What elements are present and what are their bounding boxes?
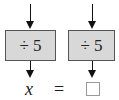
answer-box[interactable] — [86, 82, 100, 96]
output-arrowhead-right — [88, 70, 96, 78]
input-arrowhead-right — [88, 21, 96, 29]
input-arrow-right — [92, 4, 93, 22]
divide-box-left: ÷ 5 — [5, 30, 56, 61]
divide-label-left: ÷ 5 — [19, 36, 41, 56]
divide-label-right: ÷ 5 — [80, 36, 102, 56]
variable-x: x — [25, 79, 33, 100]
input-arrow-left — [30, 4, 31, 22]
divide-box-right: ÷ 5 — [68, 30, 115, 61]
equals-sign: = — [54, 79, 64, 100]
input-arrowhead-left — [26, 21, 34, 29]
output-arrowhead-left — [26, 70, 34, 78]
